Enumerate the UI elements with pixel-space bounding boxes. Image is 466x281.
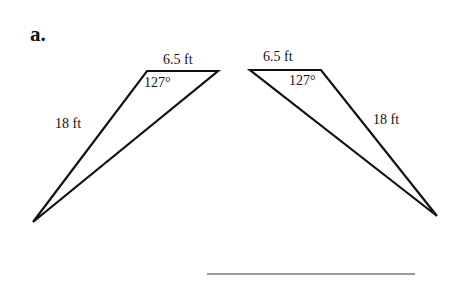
left-top-side-label: 6.5 ft <box>163 53 193 67</box>
right-top-side-label: 6.5 ft <box>263 50 293 64</box>
triangle-figures <box>0 0 466 281</box>
left-long-side-label: 18 ft <box>55 117 81 131</box>
left-triangle <box>33 71 218 222</box>
right-long-side-label: 18 ft <box>373 113 399 127</box>
right-angle-label: 127° <box>289 74 316 88</box>
right-triangle <box>250 70 437 216</box>
left-angle-label: 127° <box>144 76 171 90</box>
